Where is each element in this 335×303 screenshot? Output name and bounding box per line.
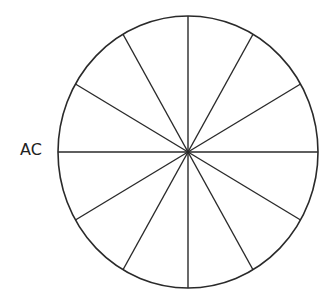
- divided-circle: [0, 0, 335, 303]
- sector-dividers: [58, 16, 318, 288]
